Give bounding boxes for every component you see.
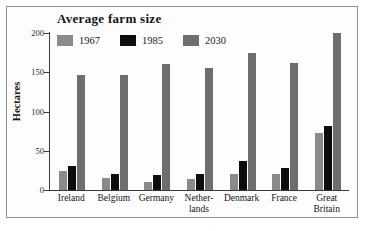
- bar: [59, 171, 67, 190]
- bar: [324, 126, 332, 190]
- y-tick: 100: [0, 112, 44, 113]
- y-tick-mark: [44, 151, 49, 152]
- x-axis-labels: IrelandBelgiumGermanyNether-landsDenmark…: [50, 193, 348, 227]
- bar: [111, 174, 119, 190]
- y-tick-mark: [44, 72, 49, 73]
- bar-group: [315, 33, 341, 190]
- x-tick-label: Ireland: [50, 193, 93, 204]
- y-tick-label: 50: [4, 146, 44, 156]
- y-tick-label: 200: [4, 28, 44, 38]
- bar: [102, 178, 110, 190]
- bar: [196, 174, 204, 190]
- y-tick-mark: [44, 112, 49, 113]
- bar-group: [187, 33, 213, 190]
- x-tick-label: France: [263, 193, 306, 204]
- bar: [315, 133, 323, 190]
- bar: [281, 168, 289, 190]
- x-axis-line: [49, 190, 349, 191]
- x-tick-label: Denmark: [220, 193, 263, 204]
- plot-bars: [50, 33, 348, 190]
- y-tick: 150: [0, 72, 44, 73]
- bar: [120, 75, 128, 190]
- bar: [187, 179, 195, 190]
- bar: [290, 63, 298, 190]
- y-tick: 50: [0, 151, 44, 152]
- x-tick-label: Belgium: [93, 193, 136, 204]
- bar: [333, 33, 341, 190]
- bar-group: [102, 33, 128, 190]
- bar-group: [59, 33, 85, 190]
- bar-group: [230, 33, 256, 190]
- y-tick: 0: [0, 190, 44, 191]
- x-tick-label: Germany: [135, 193, 178, 204]
- bar: [162, 64, 170, 190]
- bar: [248, 53, 256, 190]
- chart-title: Average farm size: [57, 11, 161, 27]
- y-axis-label: Hectares: [11, 67, 22, 137]
- bar: [230, 174, 238, 190]
- bar: [272, 174, 280, 190]
- y-tick-label: 0: [4, 185, 44, 195]
- y-tick-mark: [44, 190, 49, 191]
- bar-group: [144, 33, 170, 190]
- bar: [153, 175, 161, 190]
- y-tick: 200: [0, 33, 44, 34]
- y-tick-mark: [44, 33, 49, 34]
- bar: [77, 75, 85, 190]
- bar: [205, 68, 213, 190]
- bar-group: [272, 33, 298, 190]
- x-tick-label: GreatBritain: [305, 193, 348, 215]
- chart-figure: Average farm size 1967 1985 2030 0501001…: [0, 0, 366, 231]
- bar: [144, 182, 152, 190]
- x-tick-label: Nether-lands: [178, 193, 221, 215]
- bar: [68, 166, 76, 190]
- bar: [239, 161, 247, 190]
